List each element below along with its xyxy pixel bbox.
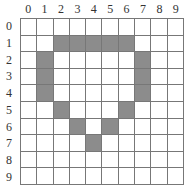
column-label: 7	[135, 3, 151, 15]
filled-cell	[54, 102, 70, 119]
empty-cell	[135, 135, 151, 152]
filled-cell	[135, 52, 151, 69]
empty-cell	[168, 36, 184, 53]
empty-cell	[54, 85, 70, 102]
empty-cell	[21, 69, 37, 86]
column-label: 2	[53, 3, 69, 15]
row-label: 7	[2, 137, 16, 149]
empty-cell	[54, 69, 70, 86]
empty-cell	[70, 69, 86, 86]
empty-cell	[151, 135, 167, 152]
empty-cell	[21, 19, 37, 36]
filled-cell	[70, 119, 86, 136]
empty-cell	[70, 152, 86, 169]
empty-cell	[37, 152, 53, 169]
filled-cell	[37, 85, 53, 102]
empty-cell	[102, 85, 118, 102]
empty-cell	[151, 19, 167, 36]
empty-cell	[21, 36, 37, 53]
empty-cell	[168, 135, 184, 152]
empty-cell	[168, 119, 184, 136]
filled-cell	[86, 36, 102, 53]
empty-cell	[54, 119, 70, 136]
empty-cell	[70, 102, 86, 119]
filled-cell	[54, 36, 70, 53]
empty-cell	[168, 85, 184, 102]
empty-cell	[70, 19, 86, 36]
column-label: 6	[119, 3, 135, 15]
filled-cell	[37, 52, 53, 69]
empty-cell	[102, 69, 118, 86]
empty-cell	[168, 102, 184, 119]
empty-cell	[102, 168, 118, 185]
empty-cell	[168, 152, 184, 169]
column-label: 8	[151, 3, 167, 15]
empty-cell	[151, 36, 167, 53]
empty-cell	[168, 69, 184, 86]
row-label: 8	[2, 154, 16, 166]
empty-cell	[135, 102, 151, 119]
empty-cell	[102, 135, 118, 152]
empty-cell	[21, 85, 37, 102]
empty-cell	[102, 19, 118, 36]
filled-cell	[102, 36, 118, 53]
row-label: 1	[2, 37, 16, 49]
empty-cell	[119, 85, 135, 102]
row-label: 3	[2, 70, 16, 82]
empty-cell	[151, 69, 167, 86]
pixel-grid-diagram: 0123456789 0123456789	[0, 0, 190, 196]
empty-cell	[119, 135, 135, 152]
empty-cell	[37, 119, 53, 136]
empty-cell	[151, 168, 167, 185]
row-label: 4	[2, 87, 16, 99]
empty-cell	[151, 152, 167, 169]
empty-cell	[151, 102, 167, 119]
column-label: 3	[69, 3, 85, 15]
empty-cell	[135, 36, 151, 53]
empty-cell	[151, 119, 167, 136]
row-label: 6	[2, 121, 16, 133]
grid	[20, 18, 184, 185]
column-label: 9	[168, 3, 184, 15]
empty-cell	[21, 168, 37, 185]
empty-cell	[119, 52, 135, 69]
filled-cell	[86, 135, 102, 152]
empty-cell	[86, 19, 102, 36]
column-label: 5	[102, 3, 118, 15]
empty-cell	[54, 135, 70, 152]
empty-cell	[86, 119, 102, 136]
filled-cell	[102, 119, 118, 136]
empty-cell	[54, 168, 70, 185]
empty-cell	[135, 119, 151, 136]
empty-cell	[86, 102, 102, 119]
filled-cell	[37, 69, 53, 86]
empty-cell	[168, 19, 184, 36]
empty-cell	[102, 102, 118, 119]
empty-cell	[119, 152, 135, 169]
empty-cell	[86, 52, 102, 69]
filled-cell	[119, 102, 135, 119]
empty-cell	[37, 168, 53, 185]
empty-cell	[54, 52, 70, 69]
row-label: 9	[2, 171, 16, 183]
empty-cell	[119, 69, 135, 86]
empty-cell	[37, 19, 53, 36]
filled-cell	[70, 36, 86, 53]
empty-cell	[151, 52, 167, 69]
empty-cell	[37, 135, 53, 152]
empty-cell	[168, 52, 184, 69]
empty-cell	[151, 85, 167, 102]
empty-cell	[54, 19, 70, 36]
empty-cell	[37, 102, 53, 119]
empty-cell	[54, 152, 70, 169]
empty-cell	[21, 102, 37, 119]
empty-cell	[70, 168, 86, 185]
empty-cell	[102, 152, 118, 169]
empty-cell	[21, 152, 37, 169]
empty-cell	[70, 135, 86, 152]
filled-cell	[135, 85, 151, 102]
empty-cell	[119, 119, 135, 136]
empty-cell	[102, 52, 118, 69]
empty-cell	[21, 135, 37, 152]
empty-cell	[135, 19, 151, 36]
